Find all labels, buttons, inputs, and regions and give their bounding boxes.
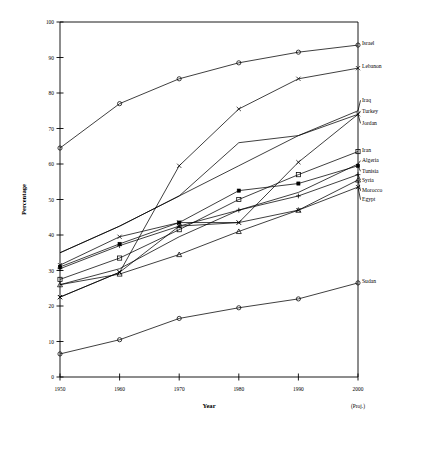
series-line-lebanon	[60, 68, 358, 297]
series-label-israel: Israel	[362, 40, 375, 46]
y-tick-label: 70	[49, 126, 55, 132]
x-tick-label: 1970	[174, 386, 185, 392]
series-label-sudan: Sudan	[362, 278, 376, 284]
series-label-egypt: Egypt	[362, 196, 376, 202]
series-label-turkey: Turkey	[362, 108, 378, 114]
x-axis-title: Year	[202, 402, 215, 409]
series-line-syria	[60, 175, 358, 269]
series-line-israel	[60, 45, 358, 148]
y-tick-label: 80	[49, 90, 55, 96]
series-label-lebanon: Lebanon	[362, 63, 382, 69]
series-label-tunisia: Tunisia	[362, 168, 379, 174]
series-line-iraq	[60, 111, 358, 253]
x-axis-projection-note: (Proj.)	[351, 403, 365, 410]
series-line-morocco	[60, 180, 358, 285]
line-chart: 0102030405060708090100195019601970198019…	[0, 0, 427, 455]
series-label-algeria: Algeria	[362, 157, 379, 163]
series-marker-tunisia	[297, 182, 300, 185]
y-tick-label: 60	[49, 161, 55, 167]
series-marker-tunisia	[178, 221, 181, 224]
series-label-morocco: Morocco	[362, 187, 382, 193]
x-tick-label: 1990	[293, 386, 304, 392]
y-tick-label: 100	[46, 19, 54, 25]
x-tick-label: 2000	[353, 386, 364, 392]
series-marker-tunisia	[237, 189, 240, 192]
chart-figure: 0102030405060708090100195019601970198019…	[0, 0, 427, 455]
series-line-egypt	[60, 187, 358, 297]
series-line-jordan	[60, 114, 358, 252]
y-axis-title: Percentage	[20, 184, 27, 215]
series-marker-syria	[296, 194, 301, 199]
series-marker-lebanon	[177, 164, 181, 168]
x-tick-label: 1980	[233, 386, 244, 392]
series-label-syria: Syria	[362, 177, 374, 183]
y-tick-label: 0	[51, 374, 54, 380]
series-label-jordan: Jordan	[362, 120, 377, 126]
y-tick-label: 30	[49, 268, 55, 274]
series-line-sudan	[60, 283, 358, 354]
x-tick-label: 1960	[114, 386, 125, 392]
series-marker-lebanon	[237, 107, 241, 111]
series-label-iraq: Iraq	[362, 97, 371, 103]
series-line-iran	[60, 152, 358, 280]
y-tick-label: 20	[49, 303, 55, 309]
y-tick-label: 90	[49, 55, 55, 61]
series-marker-syria	[236, 208, 241, 213]
series-marker-turkey	[296, 160, 300, 164]
series-label-iran: Iran	[362, 147, 371, 153]
y-tick-label: 10	[49, 339, 55, 345]
x-tick-label: 1950	[55, 386, 66, 392]
y-tick-label: 40	[49, 232, 55, 238]
y-tick-label: 50	[49, 197, 55, 203]
